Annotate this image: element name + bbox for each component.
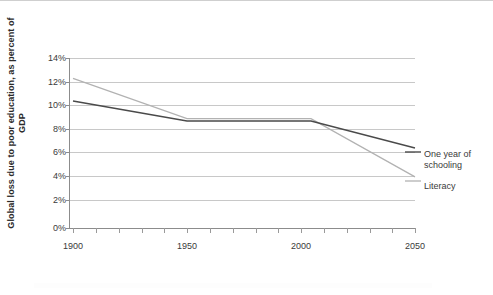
chart-container: Global loss due to poor education, as pe… bbox=[0, 0, 493, 295]
gridlines bbox=[70, 59, 415, 201]
series-line-literacy bbox=[73, 78, 415, 176]
series-line-one-year-of-schooling bbox=[73, 101, 415, 148]
plot-area bbox=[0, 0, 493, 295]
